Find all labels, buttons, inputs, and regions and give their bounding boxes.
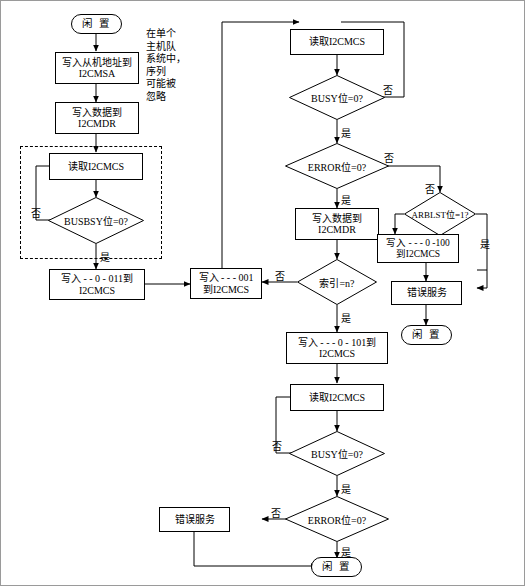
node-write-101: 写入 - - - 0 - 101到 I2CMCS bbox=[286, 332, 388, 364]
edge-label-error2-no: 否 bbox=[271, 505, 281, 520]
node-busy-check-2: BUSY位=0? bbox=[289, 431, 385, 476]
edge-label-busy2-yes: 是 bbox=[341, 481, 351, 496]
node-error-check-2-label: ERROR位=0? bbox=[285, 496, 389, 542]
edge-label-busy1-no: 否 bbox=[383, 82, 393, 97]
edge-label-arblst-yes: 是 bbox=[480, 236, 490, 251]
edge-label-index-yes: 是 bbox=[341, 310, 351, 325]
node-write-001: 写入 - - - 001 到I2CMCS bbox=[190, 268, 262, 299]
node-write-slave-addr: 写入从机地址到 I2CMSA bbox=[55, 52, 139, 84]
node-write-100: 写入 - - - 0 -100 到I2CMCS bbox=[377, 234, 459, 263]
node-error-check-1: ERROR位=0? bbox=[285, 143, 389, 189]
edge-label-busy1-yes: 是 bbox=[341, 125, 351, 140]
node-busbsy-check-label: BUSBSY位=0? bbox=[48, 197, 144, 244]
edge-label-busbsy-no: 否 bbox=[31, 205, 41, 220]
edge-label-error1-no: 否 bbox=[384, 150, 394, 165]
node-busy-check-1-label: BUSY位=0? bbox=[289, 75, 385, 120]
node-read-mcs-3: 读取I2CMCS bbox=[290, 384, 384, 411]
node-write-data-1: 写入数据到 I2CMDR bbox=[55, 102, 139, 134]
node-error-service-1: 错误服务 bbox=[391, 281, 462, 305]
edge-label-arblst-no: 否 bbox=[425, 181, 435, 196]
node-arblst-check-label: ARBLST位=1? bbox=[404, 192, 476, 236]
node-arblst-check: ARBLST位=1? bbox=[404, 192, 476, 236]
node-busy-check-1: BUSY位=0? bbox=[289, 75, 385, 120]
node-read-mcs-1: 读取I2CMCS bbox=[49, 153, 143, 180]
node-index-check-label: 索引=n? bbox=[297, 259, 377, 305]
edge-label-error2-yes: 是 bbox=[341, 544, 351, 559]
node-read-mcs-2: 读取I2CMCS bbox=[290, 29, 384, 55]
node-start-top: 闲 置 bbox=[71, 14, 122, 34]
node-index-check: 索引=n? bbox=[297, 259, 377, 305]
node-error-check-1-label: ERROR位=0? bbox=[285, 143, 389, 189]
edge-label-index-no: 否 bbox=[275, 268, 285, 283]
diagram-canvas: 闲 置 写入从机地址到 I2CMSA 写入数据到 I2CMDR 读取I2CMCS… bbox=[0, 0, 526, 587]
note-single-master: 在单个 主机队 系统中， 序列 可能被 忽略 bbox=[146, 28, 190, 103]
node-busbsy-check: BUSBSY位=0? bbox=[48, 197, 144, 244]
node-write-data-2: 写入数据到 I2CMDR bbox=[295, 208, 379, 240]
node-busy-check-2-label: BUSY位=0? bbox=[289, 431, 385, 476]
node-write-011: 写入 - - 0 - 011到 I2CMCS bbox=[49, 269, 145, 300]
node-idle-bottom: 闲 置 bbox=[311, 557, 362, 577]
edge-label-busbsy-yes: 是 bbox=[100, 249, 110, 264]
node-idle-right: 闲 置 bbox=[401, 325, 452, 345]
edge-label-error1-yes: 是 bbox=[341, 192, 351, 207]
edge-label-busy2-no: 否 bbox=[272, 438, 282, 453]
node-error-service-2: 错误服务 bbox=[159, 507, 230, 532]
node-error-check-2: ERROR位=0? bbox=[285, 496, 389, 542]
